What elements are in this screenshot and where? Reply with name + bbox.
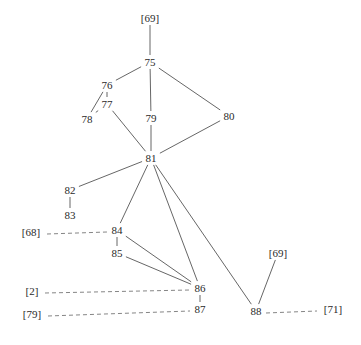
node-r71: [71] [324,303,342,315]
node-n86: 86 [195,282,207,294]
edge-n75-n76 [116,67,141,80]
nodes-layer: [69]757677787980818283[68]848586[2]87[79… [22,12,342,320]
node-n80: 80 [224,110,236,122]
edge-r68-n84 [47,232,107,234]
edge-n81-n86 [154,165,198,281]
node-n85: 85 [112,247,124,259]
node-r69right: [69] [269,247,287,259]
node-n76: 76 [102,79,114,91]
edge-n80-n81 [160,121,220,153]
edge-n84-n86 [126,236,191,282]
node-n81: 81 [146,152,157,164]
edge-n77-n81 [113,111,146,151]
node-n77: 77 [102,98,114,110]
edge-r69right-n88 [259,260,276,304]
node-r68: [68] [22,226,40,238]
edge-r2-n86 [45,290,190,293]
node-n87: 87 [195,303,207,315]
edge-n88-r71 [266,311,317,313]
node-n78: 78 [82,113,94,125]
node-n83: 83 [65,209,77,221]
edges-layer [45,25,317,316]
edge-n77-n78 [96,111,98,113]
edge-n75-n79 [150,69,151,111]
edge-n81-n84 [120,165,147,223]
node-n79: 79 [146,112,158,124]
edge-r79-n87 [48,311,190,316]
edge-n81-n82 [79,162,142,187]
node-r2: [2] [26,285,39,297]
node-r69top: [69] [141,12,159,24]
node-n75: 75 [145,56,157,68]
edge-n85-n86 [126,257,191,284]
node-n88: 88 [251,305,263,317]
node-r79: [79] [23,308,41,320]
node-n84: 84 [112,224,124,236]
stemma-diagram: [69]757677787980818283[68]848586[2]87[79… [0,0,361,345]
node-n82: 82 [65,184,76,196]
edge-n75-n80 [159,68,220,110]
